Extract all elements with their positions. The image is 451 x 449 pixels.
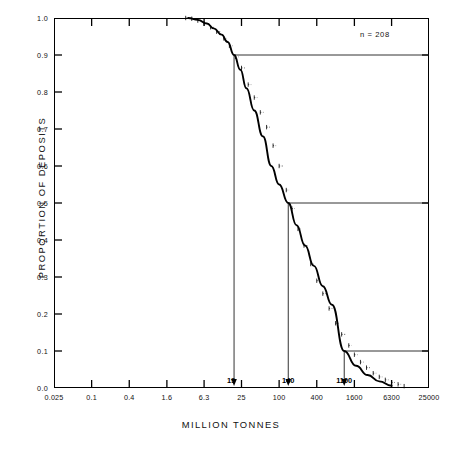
y-tick-label: 0.2 xyxy=(22,310,48,319)
y-tick-label: 0.1 xyxy=(22,347,48,356)
percentile-reference-lines xyxy=(234,55,429,351)
y-tick-label: 0.8 xyxy=(22,88,48,97)
empirical-data-points xyxy=(186,16,404,389)
x-tick-label: 1.6 xyxy=(147,393,187,402)
x-tick-label: 0.1 xyxy=(72,393,112,402)
percentile-value-label: 19 xyxy=(216,376,246,385)
x-tick-label: 400 xyxy=(297,393,337,402)
y-tick-label: 0.9 xyxy=(22,51,48,60)
x-tick-label: 100 xyxy=(259,393,299,402)
x-tick-label: 6300 xyxy=(372,393,412,402)
x-tick-label: 1600 xyxy=(334,393,374,402)
y-tick-label: 1.0 xyxy=(22,14,48,23)
x-tick-label: 25000 xyxy=(409,393,449,402)
x-tick-label: 25 xyxy=(222,393,262,402)
percentile-drop-arrows xyxy=(231,55,347,386)
x-tick-label: 6.3 xyxy=(184,393,224,402)
sample-size-annotation: n = 208 xyxy=(360,30,390,39)
y-tick-label: 0.0 xyxy=(22,384,48,393)
y-axis-ticks xyxy=(54,55,62,351)
x-tick-label: 0.4 xyxy=(109,393,149,402)
percentile-value-label: 140 xyxy=(273,376,303,385)
y-axis-title: PROPORTION OF DEPOSITS xyxy=(36,113,47,283)
fitted-curve xyxy=(188,18,391,386)
x-axis-title: MILLION TONNES xyxy=(156,419,306,430)
chart-root: 0.00.10.20.30.40.50.60.70.80.91.0 0.0250… xyxy=(0,0,451,449)
x-tick-label: 0.025 xyxy=(34,393,74,402)
percentile-value-label: 1100 xyxy=(329,376,359,385)
